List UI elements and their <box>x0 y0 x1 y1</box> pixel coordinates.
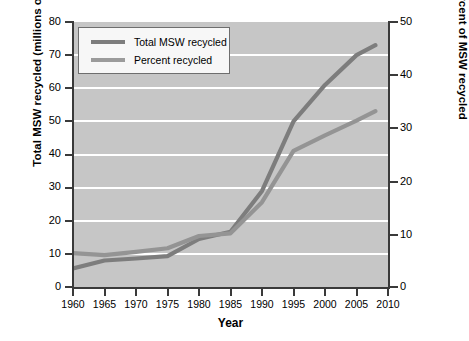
tick-x-1990 <box>261 289 263 296</box>
legend-item-total-msw-recycled: Total MSW recycled <box>85 33 223 51</box>
tick-right-30 <box>390 127 398 129</box>
legend-swatch-percent-recycled <box>91 58 125 62</box>
ytick-label-right-20: 20 <box>400 176 412 187</box>
tick-left-30 <box>65 187 73 189</box>
ytick-label-right-10: 10 <box>400 229 412 240</box>
line-percent-recycled <box>73 111 375 255</box>
tick-x-1965 <box>104 289 106 296</box>
tick-left-10 <box>65 253 73 255</box>
tick-left-50 <box>65 120 73 122</box>
tick-x-1960 <box>72 289 74 296</box>
tick-right-40 <box>390 74 398 76</box>
ytick-label-right-50: 50 <box>400 16 412 27</box>
ytick-label-right-0: 0 <box>400 281 406 292</box>
tick-left-20 <box>65 220 73 222</box>
legend-label-percent-recycled: Percent recycled <box>134 54 212 66</box>
legend-swatch-total-msw-recycled <box>91 40 125 44</box>
ytick-label-left-30: 30 <box>31 181 61 192</box>
tick-x-2005 <box>356 289 358 296</box>
tick-left-70 <box>65 54 73 56</box>
tick-left-40 <box>65 154 73 156</box>
y-axis-title-left: Total MSW recycled (millions of metric t… <box>31 0 43 171</box>
ytick-label-left-10: 10 <box>31 248 61 259</box>
tick-right-20 <box>390 181 398 183</box>
ytick-label-right-30: 30 <box>400 122 412 133</box>
legend: Total MSW recycled Percent recycled <box>78 27 230 74</box>
tick-x-2000 <box>324 289 326 296</box>
ytick-label-left-0: 0 <box>31 281 61 292</box>
tick-left-80 <box>65 21 73 23</box>
tick-x-2010 <box>387 289 389 296</box>
tick-x-1980 <box>198 289 200 296</box>
tick-right-50 <box>390 21 398 23</box>
tick-x-1970 <box>135 289 137 296</box>
ytick-label-left-20: 20 <box>31 215 61 226</box>
legend-item-percent-recycled: Percent recycled <box>85 51 223 69</box>
tick-right-10 <box>390 234 398 236</box>
legend-label-total-msw-recycled: Total MSW recycled <box>134 36 227 48</box>
xtick-label-2010: 2010 <box>368 299 408 310</box>
axis-spine-right <box>388 21 390 288</box>
tick-x-1995 <box>293 289 295 296</box>
tick-left-60 <box>65 87 73 89</box>
tick-x-1975 <box>167 289 169 296</box>
ytick-label-right-40: 40 <box>400 69 412 80</box>
tick-x-1985 <box>230 289 232 296</box>
y-axis-title-right: Percent of MSW recycled <box>457 0 469 176</box>
x-axis-title: Year <box>73 316 388 330</box>
tick-right-0 <box>390 286 398 288</box>
tick-left-0 <box>65 286 73 288</box>
